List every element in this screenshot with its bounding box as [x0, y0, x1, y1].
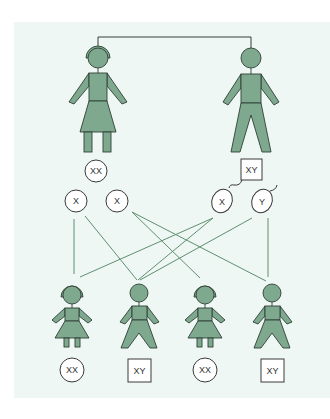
child-4-genotype-badge: XY: [261, 359, 284, 382]
mother-gamete-x1: X: [65, 190, 87, 212]
svg-text:X: X: [219, 197, 225, 207]
child-2-boy-icon: [120, 284, 159, 348]
svg-text:XY: XY: [245, 165, 257, 175]
svg-text:X: X: [114, 196, 120, 206]
svg-text:XY: XY: [266, 366, 278, 376]
child-3-girl-icon: [185, 286, 225, 347]
parent-connector-line: [98, 37, 251, 48]
child-4-boy-icon: [253, 284, 292, 348]
svg-text:XY: XY: [133, 366, 145, 376]
svg-text:X: X: [73, 196, 79, 206]
child-2-genotype-badge: XY: [128, 359, 151, 382]
child-1-girl-icon: [52, 286, 92, 347]
fertilization-lines: [74, 212, 268, 281]
father-gamete-x-sperm-icon: X: [208, 180, 242, 216]
father-genotype-badge: XY: [241, 159, 262, 180]
father-figure-icon: [223, 48, 279, 152]
sex-determination-diagram: XX XY X X X Y: [0, 0, 330, 419]
svg-text:XX: XX: [90, 166, 102, 176]
mother-figure-icon: [69, 46, 127, 152]
mother-genotype-badge: XX: [85, 160, 107, 182]
father-gamete-y-sperm-icon: Y: [248, 185, 277, 216]
svg-text:Y: Y: [259, 197, 265, 207]
svg-text:XX: XX: [199, 365, 211, 375]
child-1-genotype-badge: XX: [60, 358, 84, 382]
child-3-genotype-badge: XX: [193, 358, 217, 382]
mother-gamete-x2: X: [106, 190, 128, 212]
svg-text:XX: XX: [66, 365, 78, 375]
